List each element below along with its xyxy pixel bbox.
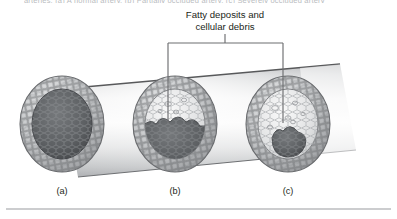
callout-line-2: cellular debris [149, 21, 301, 33]
vessel-c-severely-occluded [246, 76, 330, 172]
vessel-b-partially-occluded [133, 76, 217, 172]
vessel-a-normal-open [20, 76, 104, 172]
panel-label-a: (a) [42, 186, 82, 196]
callout-label: Fatty deposits and cellular debris [149, 9, 301, 32]
callout-line-1: Fatty deposits and [149, 9, 301, 21]
panel-label-b: (b) [155, 186, 195, 196]
atherosclerosis-figure: arteries. (a) A normal artery. (b) Parti… [0, 0, 397, 219]
panel-label-c: (c) [268, 186, 308, 196]
